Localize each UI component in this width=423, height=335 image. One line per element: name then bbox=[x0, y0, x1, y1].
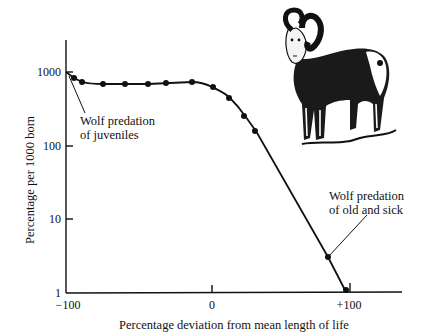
y-tick-label-1000: 1000 bbox=[37, 65, 61, 79]
annotation-old-sick-line2: of old and sick bbox=[329, 203, 404, 217]
annotation-juveniles-line1: Wolf predation bbox=[80, 114, 156, 128]
y-tick-label-10: 10 bbox=[49, 212, 61, 226]
x-tick-labels: −100 0 +100 bbox=[56, 298, 362, 312]
data-point bbox=[226, 95, 232, 101]
data-point bbox=[163, 80, 169, 86]
annotation-juveniles: Wolf predation of juveniles bbox=[69, 76, 156, 142]
data-point bbox=[210, 84, 216, 90]
data-point bbox=[189, 79, 195, 85]
annotation-old-sick: Wolf predation of old and sick bbox=[329, 189, 405, 256]
annotation-juveniles-line2: of juveniles bbox=[80, 128, 139, 142]
data-point bbox=[343, 287, 349, 293]
survivorship-chart: 1000 100 10 1 −100 0 +100 Percentage dev… bbox=[0, 0, 423, 335]
bighorn-ram-icon bbox=[285, 10, 396, 144]
data-point bbox=[145, 81, 151, 87]
y-axis-title: Percentage per 1000 born bbox=[23, 115, 37, 244]
annotation-pointer-old-sick bbox=[329, 215, 367, 256]
x-tick-label-minus-100: −100 bbox=[56, 298, 81, 312]
data-point bbox=[252, 128, 258, 134]
data-point bbox=[122, 81, 128, 87]
y-tick-labels: 1000 100 10 1 bbox=[37, 65, 61, 300]
y-tick-label-100: 100 bbox=[43, 139, 61, 153]
x-axis-line bbox=[66, 292, 402, 293]
data-point bbox=[100, 81, 106, 87]
annotation-old-sick-line1: Wolf predation bbox=[329, 189, 405, 203]
data-point bbox=[71, 75, 77, 81]
data-point bbox=[79, 79, 85, 85]
x-axis-title: Percentage deviation from mean length of… bbox=[119, 318, 349, 332]
x-tick-label-0: 0 bbox=[209, 298, 215, 312]
x-tick-label-plus-100: +100 bbox=[337, 298, 362, 312]
data-point bbox=[241, 113, 247, 119]
